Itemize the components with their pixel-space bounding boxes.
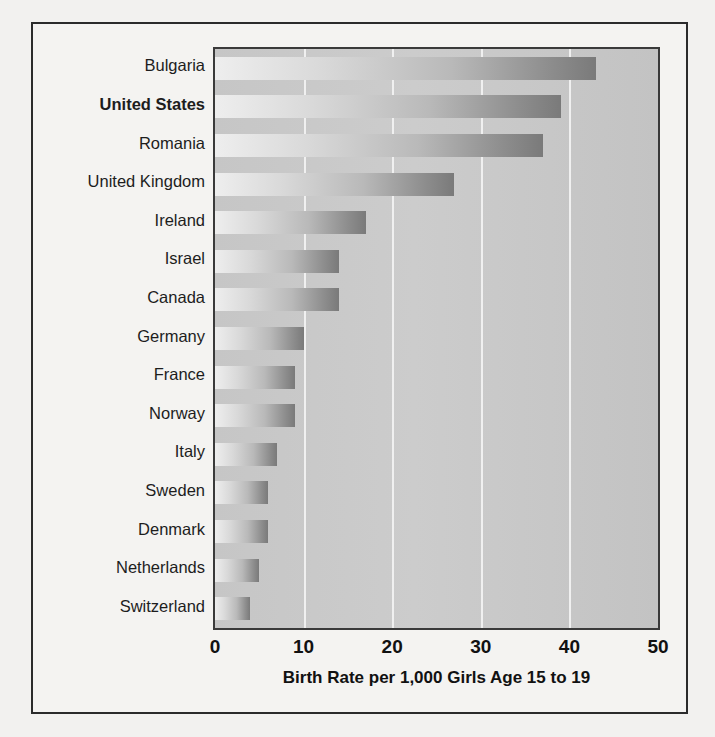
category-label-denmark: Denmark (33, 520, 205, 539)
bar-canada (215, 288, 339, 311)
scanned-page: scanned page bleed-throughrendered very … (0, 0, 715, 737)
category-label-romania: Romania (33, 134, 205, 153)
bar-row (215, 319, 658, 358)
category-label-germany: Germany (33, 327, 205, 346)
category-label-united-states: United States (33, 95, 205, 114)
bar-row (215, 203, 658, 242)
bar-rows (215, 49, 658, 628)
category-label-canada: Canada (33, 288, 205, 307)
bar-row (215, 358, 658, 397)
category-label-netherlands: Netherlands (33, 558, 205, 577)
bar-row (215, 49, 658, 88)
category-label-israel: Israel (33, 249, 205, 268)
bar-israel (215, 250, 339, 273)
bar-italy (215, 443, 277, 466)
bar-united-kingdom (215, 173, 454, 196)
category-label-france: France (33, 365, 205, 384)
bar-row (215, 512, 658, 551)
bar-denmark (215, 520, 268, 543)
bar-netherlands (215, 559, 259, 582)
category-label-sweden: Sweden (33, 481, 205, 500)
bar-row (215, 126, 658, 165)
bar-france (215, 366, 295, 389)
bar-switzerland (215, 597, 250, 620)
bar-row (215, 396, 658, 435)
bar-row (215, 242, 658, 281)
bar-row (215, 589, 658, 628)
x-tick-30: 30 (470, 636, 491, 658)
plot-area (213, 47, 660, 630)
bar-row (215, 281, 658, 320)
x-tick-50: 50 (647, 636, 668, 658)
x-tick-40: 40 (559, 636, 580, 658)
bar-row (215, 474, 658, 513)
x-tick-10: 10 (293, 636, 314, 658)
bar-row (215, 551, 658, 590)
bar-norway (215, 404, 295, 427)
x-axis-title: Birth Rate per 1,000 Girls Age 15 to 19 (213, 668, 660, 688)
bar-united-states (215, 95, 561, 118)
bar-sweden (215, 481, 268, 504)
bar-row (215, 88, 658, 127)
bar-ireland (215, 211, 366, 234)
category-label-ireland: Ireland (33, 211, 205, 230)
bar-row (215, 165, 658, 204)
category-label-united-kingdom: United Kingdom (33, 172, 205, 191)
bar-row (215, 435, 658, 474)
category-label-italy: Italy (33, 442, 205, 461)
category-label-bulgaria: Bulgaria (33, 56, 205, 75)
x-tick-0: 0 (210, 636, 221, 658)
x-tick-20: 20 (382, 636, 403, 658)
bar-romania (215, 134, 543, 157)
bar-germany (215, 327, 304, 350)
category-label-norway: Norway (33, 404, 205, 423)
bar-bulgaria (215, 57, 596, 80)
category-label-switzerland: Switzerland (33, 597, 205, 616)
chart-figure: BulgariaUnited StatesRomaniaUnited Kingd… (31, 22, 688, 714)
